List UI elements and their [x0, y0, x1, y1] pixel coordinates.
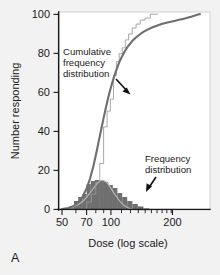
frequency-annotation-line-1: Frequency	[145, 153, 191, 164]
cumulative-annotation-line-1: Cumulative	[63, 46, 111, 57]
y-axis-title: Number responding	[9, 63, 21, 160]
y-tick-label: 40	[38, 125, 50, 137]
y-tick-label: 60	[38, 86, 50, 98]
y-tick-label: 0	[44, 203, 50, 215]
x-axis-tick-labels: 50 70 100 200	[56, 216, 182, 228]
plot-area-background	[58, 12, 210, 210]
y-tick-label: 80	[38, 47, 50, 59]
x-axis-title: Dose (log scale)	[88, 237, 167, 249]
x-tick-label: 70	[80, 216, 92, 228]
y-tick-label: 20	[38, 164, 50, 176]
chart-canvas: 100 80 60 40 20 0	[0, 0, 220, 275]
y-tick-label: 100	[32, 8, 50, 20]
frequency-annotation-line-2: distribution	[145, 164, 191, 175]
cumulative-annotation-line-3: distribution	[63, 68, 109, 79]
panel-label: A	[11, 251, 20, 265]
figure-panel-a: 100 80 60 40 20 0	[0, 0, 220, 275]
cumulative-annotation-line-2: frequency	[63, 57, 105, 68]
x-tick-label: 100	[102, 216, 120, 228]
y-axis-tick-labels: 100 80 60 40 20 0	[32, 8, 50, 215]
x-tick-label: 200	[163, 216, 181, 228]
x-tick-label: 50	[56, 216, 68, 228]
